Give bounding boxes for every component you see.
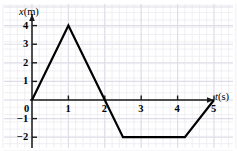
x-tick-label-5: 5: [211, 104, 216, 115]
y-tick-label--2: −2: [17, 132, 28, 143]
axis-arrowheads: [29, 14, 214, 103]
x-tick-label-4: 4: [175, 104, 180, 115]
plot-area: [0, 0, 237, 151]
x-axis-label: t(s): [215, 92, 229, 103]
x-tick-label-2: 2: [102, 104, 107, 115]
position-time-graph: 1234504321−1−2 x(m) t(s): [0, 0, 237, 151]
y-tick-label-4: 4: [23, 21, 28, 32]
y-axis-label: x(m): [19, 7, 39, 18]
x-tick-label-3: 3: [138, 104, 143, 115]
x-tick-label-1: 1: [65, 104, 70, 115]
y-tick-label-3: 3: [23, 39, 28, 50]
y-tick-label--1: −1: [17, 114, 28, 125]
y-tick-label-1: 1: [23, 76, 28, 87]
position-curve: [32, 26, 214, 138]
axis-lines: [30, 14, 214, 148]
y-tick-label-2: 2: [23, 58, 28, 69]
